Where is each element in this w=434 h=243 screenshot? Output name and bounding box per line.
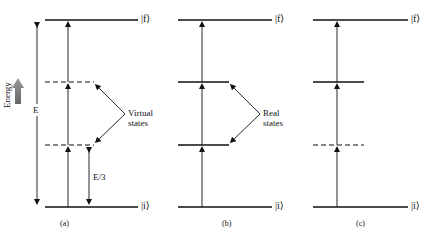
- final-state-label-c: |f⟩: [411, 14, 420, 24]
- final-state-label-b: |f⟩: [275, 14, 284, 24]
- third-energy-label: E/3: [93, 172, 106, 182]
- caption-b: (b): [222, 219, 231, 229]
- energy-arrow-icon: [12, 78, 24, 104]
- initial-state-label-b: |i⟩: [275, 201, 284, 211]
- caption-a: (a): [60, 219, 69, 229]
- real-states-label-line1: Real: [263, 108, 280, 118]
- caption-c: (c): [356, 219, 365, 229]
- final-state-label-a: |f⟩: [141, 14, 150, 24]
- energy-level-diagram: [0, 0, 434, 243]
- panel-c: [313, 20, 408, 207]
- initial-state-label-c: |i⟩: [411, 201, 420, 211]
- virtual-states-label-line1: Virtual: [128, 108, 153, 118]
- real-states-label-line2: states: [263, 118, 283, 128]
- panel-a: [37, 20, 138, 207]
- panel-b: [178, 20, 272, 207]
- energy-axis-label: Energy: [2, 82, 12, 108]
- virtual-states-label-line2: states: [128, 118, 148, 128]
- initial-state-label-a: |i⟩: [141, 201, 150, 211]
- total-energy-label: E: [33, 104, 39, 116]
